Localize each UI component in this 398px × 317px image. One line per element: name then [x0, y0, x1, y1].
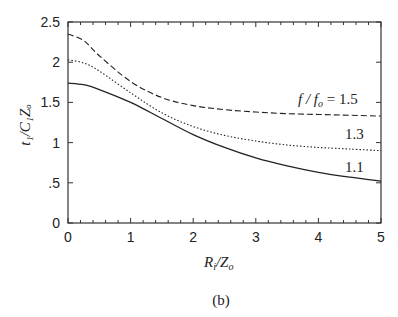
- x-tick-label: 3: [252, 229, 260, 245]
- curve-label-1-5: f / fo = 1.5: [298, 91, 358, 109]
- curve-label-1-1: 1.1: [345, 159, 364, 175]
- curves: [68, 34, 381, 181]
- y-tick-label: 2: [52, 54, 60, 70]
- axis-ticks: [68, 22, 381, 223]
- y-axis-label: t₁/C₁Zₒ: [17, 104, 33, 145]
- y-tick-label: 1: [52, 135, 60, 151]
- y-tick-label: 1.5: [41, 94, 61, 110]
- x-tick-label: 0: [64, 229, 72, 245]
- y-tick-label: 0: [52, 215, 60, 231]
- x-axis-label: Ri/Zo: [203, 254, 233, 272]
- x-tick-label: 2: [189, 229, 197, 245]
- x-tick-label: 1: [127, 229, 135, 245]
- plot-frame: [68, 22, 381, 223]
- y-tick-label: .5: [48, 175, 60, 191]
- y-tick-label: 2.5: [41, 14, 61, 30]
- chart: 0123450.511.522.5 f / fo = 1.5 1.3 1.1 R…: [0, 0, 398, 317]
- figure-caption: (b): [212, 292, 230, 309]
- curve-label-1-3: 1.3: [345, 126, 364, 142]
- x-tick-label: 4: [315, 229, 323, 245]
- x-tick-label: 5: [377, 229, 385, 245]
